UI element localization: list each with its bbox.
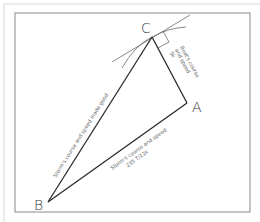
diagram-frame xyxy=(15,13,250,212)
point-label-a: A xyxy=(192,99,202,115)
storm-vector-diagram: C A B Storm's course and speed made good… xyxy=(0,0,260,222)
point-label-c: C xyxy=(141,20,151,36)
point-label-b: B xyxy=(34,197,43,213)
